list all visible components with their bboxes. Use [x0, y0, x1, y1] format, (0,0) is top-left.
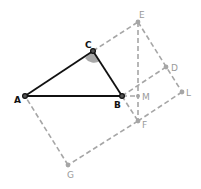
label-c: C	[85, 40, 92, 50]
point-m[interactable]	[136, 94, 140, 98]
triangle-abc	[25, 51, 122, 96]
point-a[interactable]	[23, 94, 28, 99]
label-e: E	[139, 10, 145, 20]
point-l[interactable]	[180, 90, 185, 95]
label-f: F	[142, 120, 147, 130]
point-b[interactable]	[120, 94, 125, 99]
point-e[interactable]	[136, 20, 141, 25]
label-d: D	[171, 63, 178, 73]
label-a: A	[14, 95, 21, 105]
point-f[interactable]	[136, 119, 141, 124]
segment-bc	[93, 51, 122, 96]
construction-lines	[25, 22, 182, 165]
segment-ga	[25, 96, 68, 165]
diagram-svg: A B C E D L M F G	[0, 0, 201, 189]
label-m: M	[142, 92, 150, 102]
label-l: L	[186, 88, 191, 98]
segment-bf	[122, 96, 138, 121]
point-d[interactable]	[164, 65, 169, 70]
segment-ca	[25, 51, 93, 96]
point-g[interactable]	[66, 163, 71, 168]
geometry-diagram: A B C E D L M F G	[0, 0, 201, 189]
label-g: G	[67, 170, 74, 180]
segment-ce	[93, 22, 138, 51]
segment-fg	[68, 121, 138, 165]
label-b: B	[114, 100, 121, 110]
main-points	[23, 49, 125, 99]
